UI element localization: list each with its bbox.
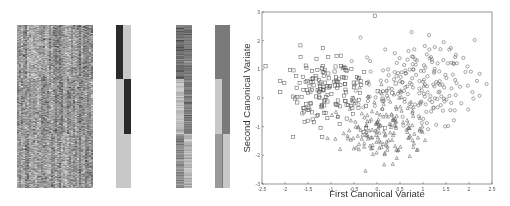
data-point-circle [455, 82, 458, 85]
data-point-triangle [413, 132, 416, 135]
data-point-triangle [357, 142, 360, 145]
data-point-circle [413, 48, 416, 51]
data-point-square [373, 14, 376, 17]
data-point-triangle [382, 102, 385, 105]
data-point-circle [379, 79, 382, 82]
data-point-triangle [330, 113, 333, 116]
y-axis-label: Second Canonical Variate [241, 43, 252, 152]
data-point-circle [404, 86, 407, 89]
data-point-square [344, 83, 347, 86]
data-point-triangle [364, 169, 367, 172]
data-point-triangle [378, 139, 381, 142]
data-point-square [305, 102, 308, 105]
data-point-triangle [378, 131, 381, 134]
data-point-triangle [406, 118, 409, 121]
data-point-circle [436, 106, 439, 109]
data-point-circle [410, 30, 413, 33]
data-point-triangle [360, 112, 363, 115]
data-point-circle [374, 96, 377, 99]
data-point-triangle [421, 125, 424, 128]
data-point-triangle [399, 145, 402, 148]
data-point-circle [402, 124, 405, 127]
data-point-triangle [412, 142, 415, 145]
data-point-triangle [382, 130, 385, 133]
data-point-triangle [392, 131, 395, 134]
data-point-square [295, 86, 298, 89]
data-point-triangle [348, 129, 351, 132]
data-point-triangle [346, 134, 349, 137]
data-point-square [311, 69, 314, 72]
data-point-circle [453, 109, 456, 112]
data-point-square [303, 120, 306, 123]
data-point-circle [446, 124, 449, 127]
data-point-circle [454, 93, 457, 96]
data-point-circle [414, 103, 417, 106]
data-point-circle [442, 59, 445, 62]
data-point-square [319, 126, 322, 129]
data-point-square [343, 83, 346, 86]
data-point-circle [439, 104, 442, 107]
data-point-circle [385, 79, 388, 82]
data-point-square [324, 81, 327, 84]
data-point-triangle [358, 86, 361, 89]
data-point-circle [384, 48, 387, 51]
data-point-circle [424, 103, 427, 106]
data-point-square [326, 117, 329, 120]
data-point-circle [401, 115, 404, 118]
data-point-circle [390, 87, 393, 90]
data-point-circle [396, 72, 399, 75]
data-point-circle [414, 73, 417, 76]
data-point-triangle [395, 114, 398, 117]
data-point-triangle [400, 109, 403, 112]
data-point-triangle [373, 100, 376, 103]
data-point-square [312, 84, 315, 87]
data-point-triangle [357, 125, 360, 128]
data-point-square [316, 68, 319, 71]
data-point-triangle [395, 107, 398, 110]
data-point-circle [373, 104, 376, 107]
data-point-triangle [375, 111, 378, 114]
data-point-circle [366, 99, 369, 102]
data-point-circle [449, 109, 452, 112]
data-point-square [279, 91, 282, 94]
x-axis-label: First Canonical Variate [329, 188, 424, 199]
y-tick-label: 3 [257, 9, 260, 15]
data-point-triangle [356, 134, 359, 137]
data-point-circle [402, 90, 405, 93]
data-point-square [292, 69, 295, 72]
data-point-triangle [375, 133, 378, 136]
data-point-triangle [423, 138, 426, 141]
data-point-square [299, 44, 302, 47]
data-point-circle [454, 55, 457, 58]
data-point-circle [428, 48, 431, 51]
data-point-circle [438, 90, 441, 93]
data-point-triangle [401, 120, 404, 123]
data-point-square [336, 99, 339, 102]
data-point-circle [420, 121, 423, 124]
data-point-square [334, 65, 337, 68]
data-point-circle [350, 60, 353, 63]
data-point-triangle [399, 105, 402, 108]
data-point-square [351, 113, 354, 116]
data-point-triangle [371, 143, 374, 146]
data-point-circle [425, 110, 428, 113]
data-point-circle [450, 87, 453, 90]
data-point-triangle [342, 132, 345, 135]
data-point-circle [411, 86, 414, 89]
data-point-triangle [389, 131, 392, 134]
data-point-circle [426, 128, 429, 131]
data-point-square [345, 117, 348, 120]
data-point-circle [443, 86, 446, 89]
data-point-triangle [389, 100, 392, 103]
x-tick-label: 2.5 [489, 186, 496, 192]
data-point-square [357, 99, 360, 102]
y-tick-label: 0 [257, 95, 260, 101]
data-point-circle [467, 108, 470, 111]
data-point-square [339, 54, 342, 57]
data-point-triangle [382, 115, 385, 118]
data-point-square [334, 76, 337, 79]
data-point-circle [464, 70, 467, 73]
data-point-square [316, 113, 319, 116]
data-point-circle [448, 94, 451, 97]
data-point-circle [407, 49, 410, 52]
